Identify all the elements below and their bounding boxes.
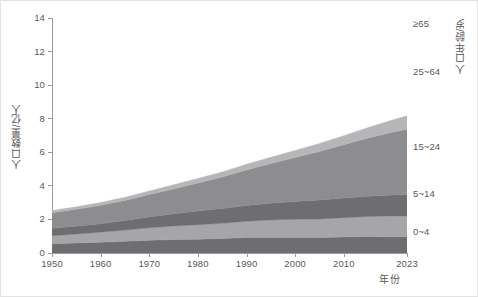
x-tick-label: 1960 — [90, 258, 112, 269]
x-tick-mark — [344, 253, 345, 257]
y-tick: 8 — [1, 114, 52, 124]
y-tick: 12 — [1, 47, 52, 57]
x-tick-label: 1970 — [138, 258, 160, 269]
y-tick: 6 — [1, 147, 52, 157]
chart-figure: 人口数量/亿人 人口年龄/岁 年份 02468101214 1950196019… — [0, 0, 478, 297]
y-tick-label: 12 — [34, 47, 48, 57]
stacked-area-svg — [52, 18, 407, 253]
y-tick-label: 4 — [40, 181, 48, 191]
x-tick-mark — [149, 253, 150, 257]
x-axis-title: 年份 — [379, 271, 400, 286]
x-tick-label: 1950 — [41, 258, 63, 269]
y-tick: 2 — [1, 214, 52, 224]
x-tick-mark — [247, 253, 248, 257]
y-tick-label: 2 — [40, 214, 48, 224]
series-label-25-64: 25~64 — [413, 66, 440, 77]
y-tick: 0 — [1, 248, 52, 258]
secondary-y-axis-title-text: 人口年龄/岁 — [453, 18, 468, 74]
series-label-0-4: 0~4 — [413, 226, 429, 237]
plot-area — [52, 18, 407, 253]
x-tick-mark — [407, 253, 408, 257]
y-tick-label: 10 — [34, 80, 48, 90]
y-tick: 4 — [1, 181, 52, 191]
y-tick: 14 — [1, 13, 52, 23]
y-tick-label: 6 — [40, 147, 48, 157]
x-tick-label: 2000 — [284, 258, 306, 269]
series-label-65: ≥65 — [413, 18, 429, 29]
y-tick-label: 8 — [40, 114, 48, 124]
secondary-y-axis-title: 人口年龄/岁 — [453, 18, 467, 138]
x-tick-label: 1980 — [187, 258, 209, 269]
y-tick-label: 14 — [34, 13, 48, 23]
x-tick-label: 2023 — [396, 258, 418, 269]
x-tick-mark — [295, 253, 296, 257]
x-tick-label: 1990 — [236, 258, 258, 269]
y-tick-label: 0 — [40, 248, 48, 258]
x-tick-mark — [52, 253, 53, 257]
series-label-15-24: 15~24 — [413, 141, 440, 152]
x-tick-mark — [101, 253, 102, 257]
x-axis-line — [52, 253, 408, 254]
x-tick-mark — [198, 253, 199, 257]
y-tick: 10 — [1, 80, 52, 90]
x-tick-label: 2010 — [333, 258, 355, 269]
series-label-5-14: 5~14 — [413, 188, 435, 199]
